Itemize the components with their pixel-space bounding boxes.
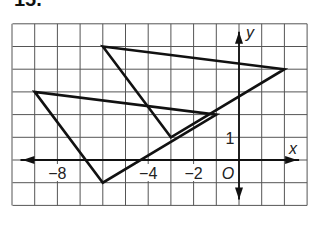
y-axis-up-arrow-icon <box>235 32 243 44</box>
origin-label: O <box>222 165 234 182</box>
x-axis-left-arrow-icon <box>23 156 35 164</box>
x-axis-right-arrow-icon <box>285 156 297 164</box>
x-tick-label: −2 <box>184 165 202 182</box>
coordinate-plane: −8−4−21Oxy <box>0 0 316 229</box>
y-axis-label: y <box>245 24 255 41</box>
exercise-number: 15. <box>14 0 42 11</box>
x-axis-label: x <box>288 140 298 157</box>
coordinate-figure: 15. −8−4−21Oxy <box>0 0 316 229</box>
x-tick-label: −8 <box>48 165 66 182</box>
y-axis-down-arrow-icon <box>235 187 243 199</box>
y-tick-label: 1 <box>226 130 235 147</box>
x-tick-label: −4 <box>139 165 157 182</box>
